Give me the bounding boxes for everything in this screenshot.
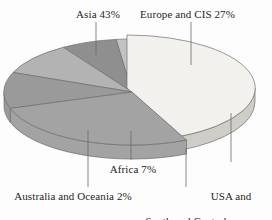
slice-label-europe-and-cis: Europe and CIS 27% <box>140 8 260 21</box>
slice-label-south-and-central-america: South and Central America 10% <box>134 190 238 220</box>
pie-chart-figure: Asia 43% Europe and CIS 27% Africa 7% US… <box>0 0 272 220</box>
slice-label-south-and-central-america-line1: South and Central <box>134 215 238 220</box>
slice-label-australia-and-oceania: Australia and Oceania 2% <box>4 190 142 203</box>
slice-label-africa: Africa 7% <box>94 163 172 176</box>
slice-label-asia: Asia 43% <box>62 8 134 21</box>
